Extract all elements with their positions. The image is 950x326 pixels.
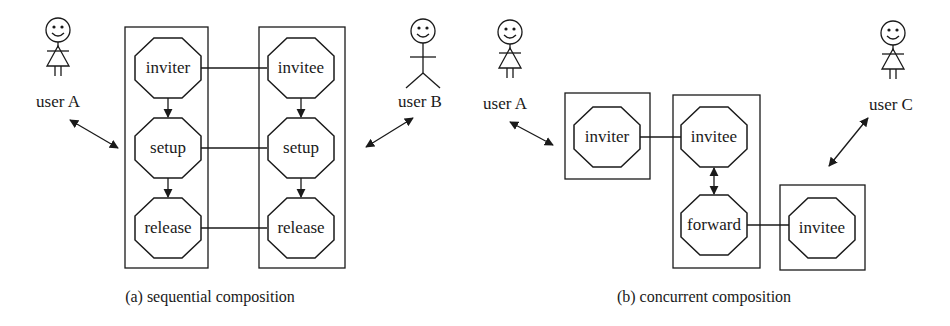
composition-diagram: user A user B inviter setup xyxy=(0,0,950,326)
user-b-bidirectional-arrow xyxy=(366,118,413,147)
node-invitee: invitee xyxy=(681,107,747,167)
figure-a-caption: (a) sequential composition xyxy=(125,288,295,306)
female-user-icon xyxy=(498,20,522,78)
figure-b-concurrent: user A user C inviter invitee forward xyxy=(483,20,913,306)
node-inviter: inviter xyxy=(574,107,640,167)
node-label: setup xyxy=(283,138,319,157)
node-label: release xyxy=(144,218,191,237)
user-a-figure: user A xyxy=(483,20,528,113)
user-b-label: user B xyxy=(398,92,442,111)
figure-b-caption: (b) concurrent composition xyxy=(617,288,791,306)
node-setup: setup xyxy=(135,118,201,178)
figure-a-sequential: user A user B inviter setup xyxy=(36,18,442,306)
user-a-bidirectional-arrow xyxy=(510,122,553,145)
node-label: release xyxy=(277,218,324,237)
male-user-icon xyxy=(406,19,440,88)
node-label: invitee xyxy=(278,58,324,77)
node-forward: forward xyxy=(681,195,747,255)
user-c-bidirectional-arrow xyxy=(829,118,868,166)
node-invitee: invitee xyxy=(268,38,334,98)
user-b-figure: user B xyxy=(398,19,442,111)
user-c-label: user C xyxy=(869,95,913,114)
node-setup: setup xyxy=(268,118,334,178)
node-label: invitee xyxy=(691,127,737,146)
node-inviter: inviter xyxy=(135,38,201,98)
node-label: inviter xyxy=(585,127,630,146)
user-a-bidirectional-arrow xyxy=(70,120,118,148)
user-a-label: user A xyxy=(483,94,528,113)
node-label: forward xyxy=(687,215,741,234)
user-a-figure: user A xyxy=(36,18,81,111)
user-c-figure: user C xyxy=(869,21,913,114)
female-user-icon xyxy=(881,21,905,79)
node-release: release xyxy=(135,198,201,258)
node-label: inviter xyxy=(146,58,191,77)
female-user-icon xyxy=(46,18,70,76)
node-release: release xyxy=(268,198,334,258)
node-label: invitee xyxy=(799,218,845,237)
user-a-label: user A xyxy=(36,92,81,111)
node-label: setup xyxy=(150,138,186,157)
node-invitee-2: invitee xyxy=(789,198,855,258)
